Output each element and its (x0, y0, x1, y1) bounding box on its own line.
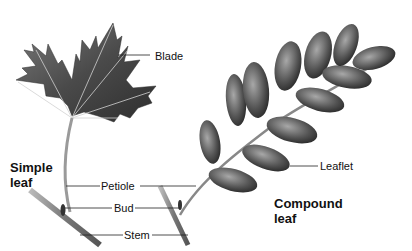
title-compound-line1: Compound (274, 196, 343, 211)
leaf-diagram (0, 0, 412, 251)
title-simple-line1: Simple (10, 160, 53, 175)
title-compound-leaf: Compound leaf (274, 196, 343, 226)
compound-stem (160, 186, 188, 245)
title-compound-line2: leaf (274, 211, 343, 226)
label-petiole: Petiole (101, 180, 135, 192)
simple-bud (61, 204, 66, 216)
label-leaflet: Leaflet (320, 160, 353, 172)
label-blade: Blade (155, 50, 183, 62)
simple-stem (30, 190, 100, 245)
title-simple-line2: leaf (10, 175, 53, 190)
compound-bud (178, 200, 182, 210)
title-simple-leaf: Simple leaf (10, 160, 53, 190)
simple-leaf-illustration (16, 23, 156, 245)
simple-petiole (65, 118, 72, 212)
label-bud: Bud (114, 202, 134, 214)
maple-blade (16, 23, 156, 122)
label-stem: Stem (124, 229, 150, 241)
